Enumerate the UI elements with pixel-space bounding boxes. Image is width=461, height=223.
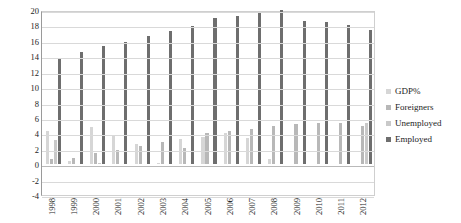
y-axis-tick-label: 2 [9, 146, 39, 154]
bar-employed [369, 30, 372, 164]
bar-group [153, 12, 175, 195]
bar-foreigners [94, 153, 97, 164]
x-axis-tick-label: 2006 [226, 198, 235, 215]
x-axis-labels: 1998199920002001200220032004200520062007… [41, 198, 375, 223]
bar-group-bars [331, 12, 353, 195]
bar-group [64, 12, 86, 195]
bar-unemployed [98, 163, 101, 164]
bar-group-bars [109, 12, 131, 195]
bar-groups [42, 12, 374, 195]
y-axis-tick-label: 12 [9, 69, 39, 77]
bar-employed [236, 16, 239, 164]
bar-group [109, 12, 131, 195]
x-axis-tick-label: 1999 [70, 198, 79, 215]
bar-gdp [268, 159, 271, 164]
y-axis-tick-label: -2 [9, 177, 39, 185]
bar-group [265, 12, 287, 195]
bar-employed [169, 31, 172, 164]
bar-employed [213, 18, 216, 164]
legend-item-label: Employed [395, 134, 432, 144]
bar-employed [124, 42, 127, 164]
y-axis-tick-label: 0 [9, 161, 39, 169]
legend-swatch-icon [386, 121, 391, 126]
bar-group [42, 12, 64, 195]
y-axis-tick-label: 18 [9, 22, 39, 30]
bar-employed [280, 10, 283, 164]
bar-group-bars [265, 12, 287, 195]
legend-swatch-icon [386, 137, 391, 142]
x-axis-tick-label: 2004 [181, 198, 190, 215]
x-axis-tick-label: 2001 [114, 198, 123, 215]
bar-group-bars [220, 12, 242, 195]
legend-item[interactable]: Employed [386, 132, 458, 146]
x-axis-tick-label: 2000 [92, 198, 101, 215]
y-axis-tick-label: 10 [9, 84, 39, 92]
bar-foreigners [161, 142, 164, 164]
gridline [42, 182, 374, 183]
bar-group-bars [153, 12, 175, 195]
bar-group-bars [87, 12, 109, 195]
legend-item-label: Foreigners [395, 102, 434, 112]
y-axis-tick-label: -4 [9, 192, 39, 200]
bar-unemployed [365, 123, 368, 164]
x-axis-tick-label: 2002 [137, 198, 146, 215]
legend-item-label: GDP% [395, 86, 421, 96]
bar-group-bars [176, 12, 198, 195]
gridline [42, 43, 374, 44]
bar-group [309, 12, 331, 195]
plot-area [41, 11, 375, 196]
bar-group [176, 12, 198, 195]
bar-chart: 20181614121086420-2-4 199819992000200120… [0, 0, 461, 223]
bar-foreigners [272, 126, 275, 165]
gridline [42, 151, 374, 152]
gridline [42, 58, 374, 59]
gridline [42, 89, 374, 90]
bar-foreigners [294, 124, 297, 164]
gridline [42, 135, 374, 136]
gridline [42, 74, 374, 75]
bar-foreigners [139, 146, 142, 165]
gridline [42, 105, 374, 106]
bar-gdp [157, 163, 160, 165]
gridline [42, 12, 374, 13]
bar-foreigners [205, 133, 208, 164]
bar-group [220, 12, 242, 195]
bar-foreigners [361, 126, 364, 164]
bar-foreigners [72, 158, 75, 164]
bar-group [87, 12, 109, 195]
x-axis-tick-label: 2009 [293, 198, 302, 215]
bar-group [331, 12, 353, 195]
bar-unemployed [54, 140, 57, 164]
bar-foreigners [339, 123, 342, 164]
gridline [42, 166, 374, 167]
legend-item-label: Unemployed [395, 118, 442, 128]
y-axis-tick-label: 6 [9, 115, 39, 123]
y-axis-tick-label: 16 [9, 38, 39, 46]
gridline [42, 120, 374, 121]
y-axis: 20181614121086420-2-4 [5, 11, 39, 196]
x-axis-tick-label: 2003 [159, 198, 168, 215]
legend-item[interactable]: Foreigners [386, 100, 458, 114]
x-axis-tick-label: 2010 [315, 198, 324, 215]
bar-group [242, 12, 264, 195]
bar-foreigners [317, 123, 320, 164]
bar-group-bars [354, 12, 376, 195]
legend-swatch-icon [386, 105, 391, 110]
bar-foreigners [50, 159, 53, 164]
bar-foreigners [250, 129, 253, 164]
bar-group-bars [131, 12, 153, 195]
x-axis-tick-label: 2008 [270, 198, 279, 215]
bar-employed [347, 25, 350, 164]
bar-group-bars [242, 12, 264, 195]
bar-group [198, 12, 220, 195]
bar-gdp [135, 144, 138, 164]
bar-group-bars [198, 12, 220, 195]
bar-gdp [68, 161, 71, 164]
legend-item[interactable]: GDP% [386, 84, 458, 98]
y-axis-tick-label: 4 [9, 130, 39, 138]
bar-group [131, 12, 153, 195]
chart-legend: GDP%ForeignersUnemployedEmployed [386, 84, 458, 148]
bar-group-bars [287, 12, 309, 195]
legend-item[interactable]: Unemployed [386, 116, 458, 130]
y-axis-tick-label: 8 [9, 100, 39, 108]
